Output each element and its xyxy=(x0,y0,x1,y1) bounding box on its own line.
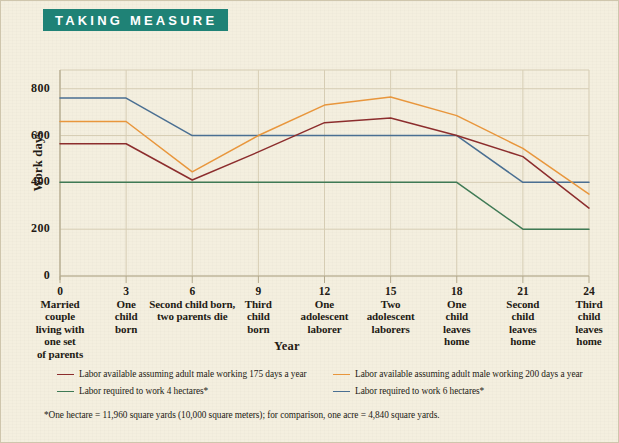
legend-item: Labor available assuming adult male work… xyxy=(333,369,583,379)
legend-item: Labor required to work 4 hectares* xyxy=(57,386,208,396)
legend-label: Labor required to work 4 hectares* xyxy=(79,386,208,396)
legend-item: Labor available assuming adult male work… xyxy=(57,369,307,379)
footnote-text: *One hectare = 11,960 square yards (10,0… xyxy=(44,410,439,420)
legend-item: Labor required to work 6 hectares* xyxy=(333,386,484,396)
legend-label: Labor available assuming adult male work… xyxy=(79,369,307,379)
legend-color-swatch xyxy=(57,391,74,392)
legend-color-swatch xyxy=(333,374,350,375)
chart-legend: Labor available assuming adult male work… xyxy=(0,0,619,443)
legend-color-swatch xyxy=(333,391,350,392)
legend-label: Labor required to work 6 hectares* xyxy=(355,386,484,396)
legend-color-swatch xyxy=(57,374,74,375)
legend-label: Labor available assuming adult male work… xyxy=(355,369,583,379)
